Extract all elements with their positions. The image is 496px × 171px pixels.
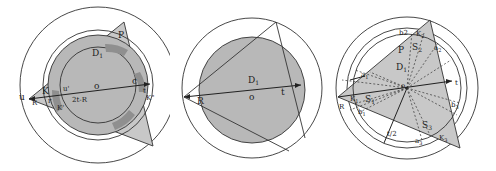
label-u-prime: u' <box>63 85 70 93</box>
label-t: t <box>281 87 285 97</box>
label-r: R <box>339 103 345 111</box>
diagram-panel-1: P D1 K u u' o c t K" K' 2t-R R r <box>0 0 170 171</box>
label-p: P <box>118 30 124 40</box>
diagram-3-svg: b2 K2 P S2 a2 D1 a1 o t K1 S1 R b1 b3 S3… <box>330 0 496 171</box>
label-o: o <box>94 81 99 91</box>
label-o: o <box>401 82 405 90</box>
label-t-half: t/2 <box>387 130 397 138</box>
label-t: t <box>455 79 458 87</box>
label-k-prime: K' <box>57 104 64 112</box>
diagram-1-svg: P D1 K u u' o c t K" K' 2t-R R r <box>0 0 170 171</box>
label-r: R <box>197 96 204 106</box>
diagram-panel-3: b2 K2 P S2 a2 D1 a1 o t K1 S1 R b1 b3 S3… <box>330 0 496 171</box>
label-k: K <box>42 86 49 96</box>
label-k-double-prime: K" <box>146 94 154 102</box>
label-2t-minus-r: 2t-R <box>72 96 88 104</box>
label-b2: b2 <box>399 29 408 37</box>
label-b1: b1 <box>358 108 366 117</box>
label-c: c <box>132 76 137 86</box>
diagram-2-svg: D1 o t R <box>165 0 330 171</box>
label-o: o <box>249 92 254 102</box>
label-r-upper: R <box>32 99 38 107</box>
label-u: u <box>19 92 25 102</box>
label-p: P <box>398 45 404 55</box>
diagram-panel-2: D1 o t R <box>165 0 330 171</box>
